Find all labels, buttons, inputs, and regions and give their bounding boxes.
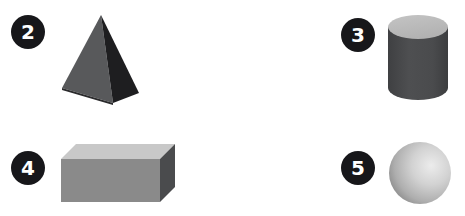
shape-sphere [388,141,452,205]
shape-cylinder [386,12,450,104]
number-badge-3: 3 [341,18,375,52]
cylinder-top-face [388,15,448,39]
box-front-face [61,159,160,202]
number-badge-2: 2 [11,15,45,49]
number-badge-5: 5 [341,151,375,185]
shapes-canvas: 2 3 [0,0,465,216]
sphere-body [389,142,451,204]
shape-pyramid [58,10,144,108]
number-badge-4: 4 [11,151,45,185]
shape-box [58,142,180,204]
box-top-face [61,144,175,159]
